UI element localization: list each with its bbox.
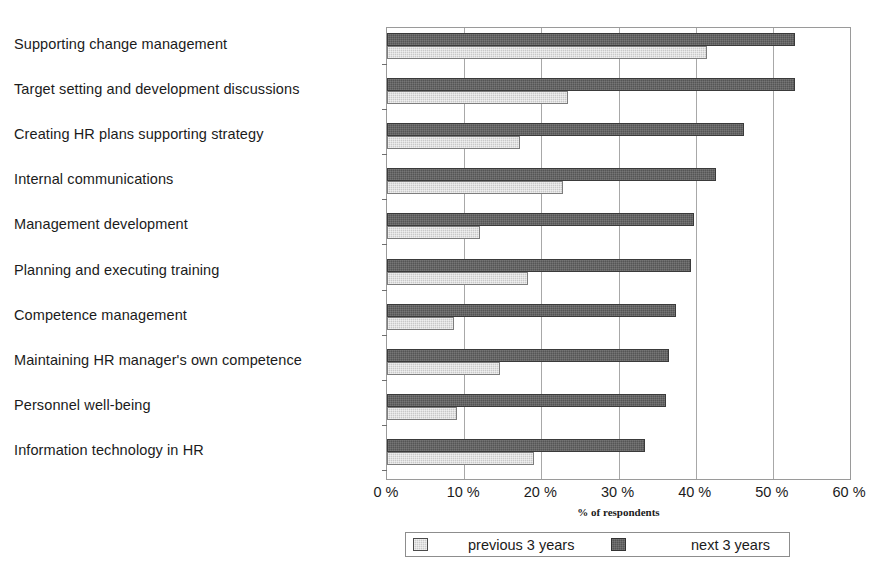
bar-group [387,78,850,104]
category-label: Target setting and development discussio… [14,81,379,97]
bar-previous-3-years [387,407,457,420]
legend-label-next-3-years: next 3 years [691,537,770,553]
bar-next-3-years [387,78,795,91]
y-tick-8 [382,425,387,426]
y-tick-9 [382,470,387,471]
x-tick-label-50: 50 % [755,484,788,500]
bar-next-3-years [387,213,694,226]
category-label: Internal communications [14,171,379,187]
x-tick-label-20: 20 % [524,484,557,500]
bar-previous-3-years [387,226,480,239]
x-tick-label-0: 0 % [374,484,399,500]
category-label: Information technology in HR [14,442,379,458]
bar-group [387,349,850,375]
y-tick-3 [382,199,387,200]
legend-swatch-next-3-years [611,538,626,551]
bar-group [387,33,850,59]
x-axis-tick-labels: 0 %10 %20 %30 %40 %50 %60 % [386,484,851,504]
bar-group [387,259,850,285]
category-label: Maintaining HR manager's own competence [14,352,379,368]
category-label: Personnel well-being [14,397,379,413]
bar-next-3-years [387,123,744,136]
bar-previous-3-years [387,362,500,375]
category-label: Competence management [14,307,379,323]
y-tick-0 [382,64,387,65]
bar-previous-3-years [387,272,528,285]
bar-next-3-years [387,349,669,362]
y-tick-5 [382,290,387,291]
bar-previous-3-years [387,181,563,194]
legend-label-previous-3-years: previous 3 years [468,537,574,553]
y-tick-1 [382,109,387,110]
bar-next-3-years [387,33,795,46]
bar-previous-3-years [387,136,520,149]
bar-group [387,394,850,420]
bar-group [387,168,850,194]
bar-next-3-years [387,304,676,317]
horizontal-bar-chart: Supporting change managementTarget setti… [0,0,889,586]
category-label: Management development [14,216,379,232]
bar-previous-3-years [387,452,534,465]
legend-swatch-previous-3-years [413,538,428,551]
x-axis-title: % of respondents [386,506,851,518]
bar-group [387,439,850,465]
bar-group [387,304,850,330]
bar-next-3-years [387,168,716,181]
y-tick-2 [382,154,387,155]
y-tick-4 [382,244,387,245]
category-axis-labels: Supporting change managementTarget setti… [14,27,379,480]
plot-area [386,27,851,480]
category-label: Planning and executing training [14,262,379,278]
x-tick-label-60: 60 % [832,484,865,500]
bar-group [387,213,850,239]
category-label: Supporting change management [14,36,379,52]
bar-previous-3-years [387,91,568,104]
bar-previous-3-years [387,317,454,330]
x-tick-label-40: 40 % [678,484,711,500]
y-tick-7 [382,380,387,381]
bar-next-3-years [387,259,691,272]
bar-group [387,123,850,149]
x-tick-label-30: 30 % [601,484,634,500]
category-label: Creating HR plans supporting strategy [14,126,379,142]
x-tick-label-10: 10 % [447,484,480,500]
bar-next-3-years [387,394,666,407]
bar-next-3-years [387,439,645,452]
bar-previous-3-years [387,46,707,59]
y-tick-6 [382,335,387,336]
chart-legend: previous 3 years next 3 years [405,532,790,557]
